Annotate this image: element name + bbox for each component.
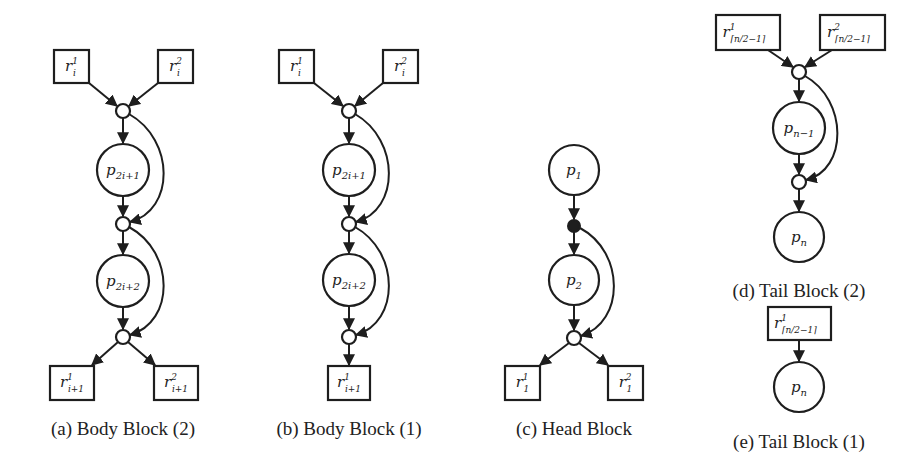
label-base: p (791, 228, 801, 246)
panel-caption: (b) Body Block (1) (276, 418, 421, 440)
arc-edge (540, 343, 569, 365)
label-subscript: 2 (575, 280, 582, 291)
label-base: p (332, 161, 342, 179)
transition-node (116, 104, 130, 118)
place-node: pn (774, 362, 824, 412)
label-base: p (106, 161, 116, 179)
label-subscript: i+1 (172, 384, 188, 394)
label-subscript: ⌈n/2−1⌉ (782, 325, 817, 335)
petri-net-figure: r1ir2ip2i+1p2i+2r1i+1r2i+1(a) Body Block… (0, 0, 924, 476)
arc-edge (92, 342, 118, 365)
label-superscript: 2 (400, 56, 407, 66)
label-superscript: 1 (730, 22, 736, 32)
label-superscript: 2 (175, 56, 182, 66)
resource-box: r2⌈n/2−1⌉ (820, 15, 885, 50)
label-superscript: 1 (72, 56, 78, 66)
label-subscript: i+1 (68, 384, 84, 394)
transition-node (116, 330, 130, 344)
panel-d: r1⌈n/2−1⌉r2⌈n/2−1⌉pn−1pn(d) Tail Block (… (716, 15, 885, 302)
arc-edge (129, 83, 158, 106)
place-node: p2i+1 (97, 144, 149, 196)
panel-caption: (e) Tail Block (1) (733, 431, 865, 453)
label-subscript: n (801, 387, 807, 398)
label-subscript: ⌈n/2−1⌉ (835, 34, 870, 44)
label-subscript: 2i+2 (115, 281, 140, 292)
panel-a: r1ir2ip2i+1p2i+2r1i+1r2i+1(a) Body Block… (50, 50, 198, 440)
resource-box: r1⌈n/2−1⌉ (716, 15, 780, 50)
panel-caption: (a) Body Block (2) (51, 418, 195, 440)
label-subscript: 2i+1 (341, 170, 366, 181)
place-node: p2i+2 (323, 254, 375, 306)
label-subscript: 1 (576, 170, 582, 181)
resource-box: r1i (279, 50, 314, 83)
label-base: p (566, 271, 576, 289)
place-node: p1 (549, 145, 599, 195)
resource-box: r2i (158, 50, 193, 83)
panel-c: p1p2r11r21(c) Head Block (505, 145, 643, 440)
transition-node (342, 330, 356, 344)
resource-box: r21 (608, 366, 643, 400)
arc-edge (89, 83, 117, 106)
label-subscript: i+1 (345, 384, 361, 394)
token-node (568, 220, 580, 232)
arc-edge (355, 83, 383, 106)
label-subscript: 2i+2 (341, 280, 366, 291)
label-superscript: 2 (833, 22, 840, 32)
resource-box: r11 (505, 366, 540, 400)
panels-layer: r1ir2ip2i+1p2i+2r1i+1r2i+1(a) Body Block… (50, 15, 885, 453)
transition-node (567, 331, 581, 345)
place-node: pn−1 (773, 102, 825, 154)
resource-box: r2i (383, 50, 418, 83)
label-subscript: 1 (627, 384, 633, 394)
label-subscript: ⌈n/2−1⌉ (731, 34, 766, 44)
resource-box: r1⌈n/2−1⌉ (768, 307, 831, 340)
resource-box: r1i (54, 50, 89, 83)
arc-edge (805, 50, 832, 67)
panel-caption: (c) Head Block (516, 418, 633, 440)
place-node: pn (774, 212, 824, 262)
label-base: p (332, 271, 342, 289)
label-superscript: 1 (297, 56, 303, 66)
transition-node (342, 217, 356, 231)
label-subscript: n (801, 237, 807, 248)
label-superscript: 1 (523, 372, 529, 382)
label-superscript: 1 (781, 313, 787, 323)
figure-canvas: r1ir2ip2i+1p2i+2r1i+1r2i+1(a) Body Block… (0, 0, 924, 476)
label-subscript: n−1 (793, 128, 814, 139)
label-base: p (784, 119, 794, 137)
arc-edge (314, 83, 343, 106)
arc-edge (579, 343, 608, 365)
label-superscript: 1 (344, 372, 350, 382)
place-node: p2i+2 (97, 255, 149, 307)
transition-node (792, 175, 806, 189)
transition-node (342, 104, 356, 118)
resource-box: r1i+1 (50, 366, 94, 400)
arc-edge (768, 50, 793, 67)
panel-e: r1⌈n/2−1⌉pn(e) Tail Block (1) (733, 307, 865, 453)
label-subscript: i (402, 68, 405, 78)
panel-b: r1ir2ip2i+1p2i+2r1i+1(b) Body Block (1) (276, 50, 421, 440)
resource-box: r2i+1 (154, 366, 198, 400)
label-subscript: 1 (524, 384, 530, 394)
label-subscript: 2i+1 (115, 170, 140, 181)
place-node: p2 (549, 255, 599, 305)
arc-edge (128, 342, 155, 365)
label-subscript: i (73, 68, 76, 78)
label-subscript: i (177, 68, 180, 78)
transition-node (116, 217, 130, 231)
panel-caption: (d) Tail Block (2) (733, 280, 866, 302)
transition-node (792, 65, 806, 79)
label-superscript: 2 (625, 372, 632, 382)
label-superscript: 1 (67, 372, 73, 382)
label-base: p (791, 378, 801, 396)
label-superscript: 2 (170, 372, 177, 382)
label-base: p (106, 272, 116, 290)
resource-box: r1i+1 (328, 366, 370, 400)
label-base: p (566, 161, 576, 179)
place-node: p2i+1 (323, 144, 375, 196)
label-subscript: i (298, 68, 301, 78)
